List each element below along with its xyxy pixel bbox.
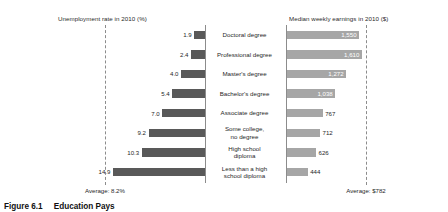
unemployment-bar	[142, 148, 206, 157]
earnings-value-label: 712	[323, 128, 333, 137]
earnings-bar	[287, 148, 316, 157]
left-average-line	[105, 25, 106, 185]
left-axis-line	[205, 25, 206, 183]
earnings-value-label: 1,272	[287, 69, 344, 78]
category-label: Some college,no degree	[206, 123, 283, 143]
figure-caption-number: Figure 6.1	[4, 202, 43, 211]
left-average-label: Average: 8.2%	[85, 187, 125, 194]
unemployment-value-label: 9.2	[138, 128, 146, 137]
category-label: Bachelor's degree	[206, 84, 283, 104]
category-label: Less than a highschool diploma	[206, 162, 283, 182]
category-label: Doctoral degree	[206, 25, 283, 45]
category-label: Associate degree	[206, 103, 283, 123]
right-average-line	[366, 25, 367, 185]
chart-row: 1.9Doctoral degree1,550	[0, 25, 448, 45]
unemployment-bar	[172, 89, 206, 98]
unemployment-bar	[162, 109, 206, 118]
chart-row: 14.9Less than a highschool diploma444	[0, 162, 448, 182]
earnings-bar	[287, 109, 323, 118]
right-average-label: Average: $782	[346, 187, 386, 194]
category-label: Master's degree	[206, 64, 283, 84]
category-label: Professional degree	[206, 45, 283, 65]
unemployment-bar	[113, 168, 206, 177]
chart-row: 10.3High schooldiploma626	[0, 143, 448, 163]
unemployment-value-label: 4.0	[170, 69, 178, 78]
chart-row: 9.2Some college,no degree712	[0, 123, 448, 143]
right-panel-title: Median weekly earnings in 2010 ($)	[289, 15, 388, 22]
earnings-value-label: 767	[325, 109, 335, 118]
plot-area: 1.9Doctoral degree1,5502.4Professional d…	[0, 25, 448, 183]
earnings-value-label: 1,550	[287, 30, 357, 39]
unemployment-value-label: 1.9	[183, 30, 191, 39]
unemployment-value-label: 5.4	[161, 89, 169, 98]
chart-row: 2.4Professional degree1,610	[0, 45, 448, 65]
right-axis-line	[286, 25, 287, 183]
figure-caption: Figure 6.1Education Pays	[4, 202, 304, 211]
category-label: High schooldiploma	[206, 143, 283, 163]
earnings-value-label: 1,610	[287, 50, 359, 59]
unemployment-bar	[181, 70, 206, 79]
figure-caption-text: Education Pays	[54, 202, 115, 211]
chart-row: 4.0Master's degree1,272	[0, 64, 448, 84]
unemployment-bar	[191, 50, 206, 59]
unemployment-value-label: 2.4	[180, 50, 188, 59]
earnings-value-label: 1,038	[287, 89, 333, 98]
left-panel-title: Unemployment rate in 2010 (%)	[58, 15, 147, 22]
unemployment-value-label: 10.3	[127, 148, 139, 157]
chart-row: 7.0Associate degree767	[0, 103, 448, 123]
figure-education-pays: Unemployment rate in 2010 (%) Median wee…	[0, 0, 448, 212]
chart-row: 5.4Bachelor's degree1,038	[0, 84, 448, 104]
unemployment-value-label: 7.0	[151, 109, 159, 118]
earnings-value-label: 626	[319, 148, 329, 157]
earnings-value-label: 444	[310, 167, 320, 176]
unemployment-bar	[149, 129, 207, 138]
earnings-bar	[287, 168, 308, 177]
earnings-bar	[287, 129, 320, 138]
